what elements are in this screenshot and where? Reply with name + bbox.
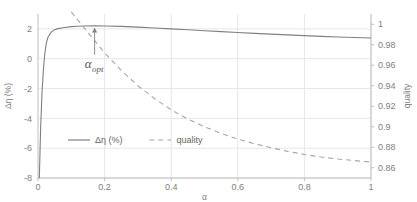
- axes-layer: [38, 14, 374, 181]
- y-axis-tick-label: 0: [27, 54, 32, 64]
- annotation-alpha-opt: αopt: [85, 28, 104, 74]
- y-axis-tick-label: -4: [24, 114, 32, 124]
- y2-axis-tick-label: 0.9: [378, 122, 391, 132]
- y-axis-title: Δη (%): [3, 83, 13, 109]
- y2-axis-tick-label: 0.92: [378, 101, 396, 111]
- legend: Δη (%)quality: [68, 135, 203, 145]
- x-axis-tick-label: 0.6: [232, 182, 245, 192]
- x-axis-tick-label: 0: [35, 182, 40, 192]
- axis-titles-layer: Δη (%)qualityα: [3, 83, 412, 202]
- y2-axis-tick-label: 0.98: [378, 40, 396, 50]
- legend-label-delta-eta: Δη (%): [95, 135, 123, 145]
- x-axis-tick-label: 1: [368, 182, 373, 192]
- series-layer: [39, 12, 371, 178]
- legend-label-quality: quality: [176, 135, 203, 145]
- y-axis-tick-label: -8: [24, 173, 32, 183]
- y2-axis-tick-label: 0.86: [378, 163, 396, 173]
- dual-axis-line-chart: 20-2-4-6-810.980.960.940.920.90.880.8600…: [0, 0, 417, 202]
- y2-axis-tick-label: 1: [378, 19, 383, 29]
- x-axis-title: α: [202, 192, 207, 202]
- chart-container: 20-2-4-6-810.980.960.940.920.90.880.8600…: [0, 0, 417, 202]
- y-axis-tick-label: -6: [24, 143, 32, 153]
- x-axis-tick-label: 0.8: [298, 182, 311, 192]
- y-axis-tick-label: -2: [24, 84, 32, 94]
- gridlines-layer: [38, 14, 371, 178]
- x-axis-tick-label: 0.2: [98, 182, 111, 192]
- y2-axis-tick-label: 0.96: [378, 60, 396, 70]
- alpha-opt-subscript: opt: [92, 64, 104, 74]
- y2-axis-title: quality: [402, 83, 412, 108]
- y2-axis-tick-label: 0.88: [378, 142, 396, 152]
- y-axis-tick-label: 2: [27, 24, 32, 34]
- y2-axis-tick-label: 0.94: [378, 81, 396, 91]
- x-axis-tick-label: 0.4: [165, 182, 178, 192]
- series-line-delta-eta: [39, 26, 371, 178]
- tick-labels-layer: 20-2-4-6-810.980.960.940.920.90.880.8600…: [24, 19, 396, 192]
